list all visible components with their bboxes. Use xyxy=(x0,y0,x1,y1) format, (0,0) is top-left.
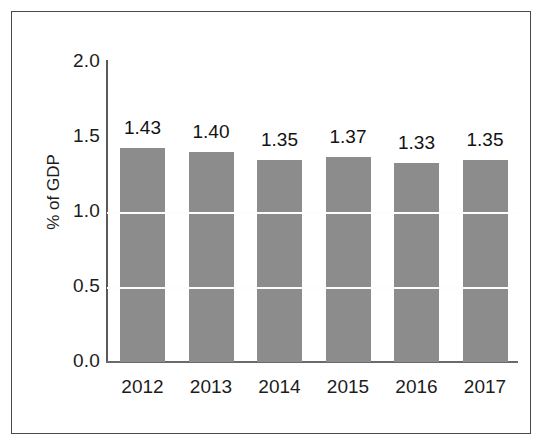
bar-2015 xyxy=(326,157,371,363)
bar-value-label: 1.43 xyxy=(104,117,181,139)
bar-value-label: 1.37 xyxy=(310,126,387,148)
gridline-0-5 xyxy=(107,287,518,289)
bar-2012 xyxy=(120,148,165,363)
y-axis-tick-2-0: 2.0 xyxy=(54,50,100,72)
plot-area: 1.4320121.4020131.3520141.3720151.332016… xyxy=(107,62,518,362)
bar-2016 xyxy=(394,163,439,363)
bar-value-label: 1.33 xyxy=(378,132,455,154)
figure-bar-chart: 2.01.51.00.50.0 % of GDP 1.4320121.40201… xyxy=(0,0,546,448)
x-axis-label-2017: 2017 xyxy=(445,376,526,398)
bar-value-label: 1.35 xyxy=(241,129,318,151)
bar-2014 xyxy=(257,160,302,363)
bar-2017 xyxy=(463,160,508,363)
bar-value-label: 1.35 xyxy=(447,129,524,151)
y-axis-tick-0-5: 0.5 xyxy=(54,275,100,297)
bar-2013 xyxy=(189,152,234,362)
y-axis-tick-0-0: 0.0 xyxy=(54,350,100,372)
y-axis-title: % of GDP xyxy=(44,132,64,252)
bar-value-label: 1.40 xyxy=(173,121,250,143)
gridline-1 xyxy=(107,212,518,214)
